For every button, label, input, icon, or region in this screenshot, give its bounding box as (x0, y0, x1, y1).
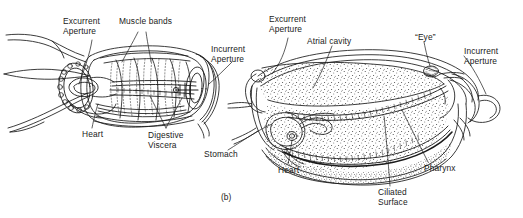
label-eye: “Eye” (415, 32, 436, 42)
leader-muscle-2 (146, 32, 151, 62)
label-stomach: Stomach (204, 149, 238, 159)
label-ciliated-surface: Ciliated Surface (378, 187, 408, 207)
label-right-excurrent-aperture: Excurrent Aperture (269, 14, 306, 34)
label-right-incurrent-aperture: Incurrent Aperture (464, 46, 498, 66)
left-panel-artwork (4, 34, 219, 138)
label-left-heart: Heart (82, 129, 103, 139)
right-panel-artwork (228, 50, 500, 185)
label-muscle-bands: Muscle bands (119, 16, 172, 26)
label-atrial-cavity: Atrial cavity (307, 36, 351, 46)
label-left-incurrent-aperture: Incurrent Aperture (211, 44, 245, 64)
label-digestive-viscera: Digestive Viscera (148, 130, 184, 150)
label-right-heart: Heart (278, 165, 299, 175)
figure-caption: (b) (221, 192, 231, 202)
right-incurrent-aperture (440, 74, 500, 140)
figure-container: Excurrent Aperture Muscle bands Incurren… (0, 0, 523, 218)
label-pharynx: Pharynx (424, 163, 456, 173)
left-excurrent-aperture (56, 61, 116, 118)
left-incurrent-aperture (173, 54, 219, 138)
label-left-excurrent-aperture: Excurrent Aperture (63, 16, 100, 36)
